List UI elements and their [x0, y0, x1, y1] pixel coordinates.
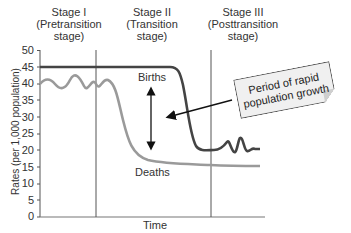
chart-plot — [0, 0, 351, 233]
deaths-line — [40, 75, 260, 166]
callout-pointer-arrow — [168, 100, 232, 117]
births-label: Births — [138, 71, 166, 83]
y-axis — [37, 50, 40, 217]
deaths-label: Deaths — [135, 166, 170, 178]
